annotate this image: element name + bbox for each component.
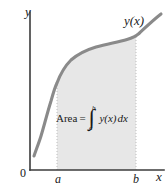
x-tick-label-b: b xyxy=(133,173,139,185)
area-formula-word: Area xyxy=(56,113,77,124)
area-formula-equals: = xyxy=(79,113,85,124)
origin-label: 0 xyxy=(20,167,26,179)
integral-upper-limit: b xyxy=(92,105,96,112)
x-axis-label: x xyxy=(156,170,162,183)
curve-label: y(x) xyxy=(124,14,144,27)
shaded-area-region xyxy=(57,37,136,171)
differential-dx: dx xyxy=(118,113,128,124)
x-tick-label-a: a xyxy=(55,173,61,185)
integral-group: ∫ b a xyxy=(89,108,98,129)
figure-canvas xyxy=(0,0,168,193)
area-formula-annotation: Area = ∫ b a y(x) dx xyxy=(56,108,128,129)
area-under-curve-figure: y x y(x) 0 a b Area = ∫ b a y(x) dx xyxy=(0,0,168,193)
integrand-expression: y(x) xyxy=(99,113,116,124)
integral-lower-limit: a xyxy=(89,125,93,132)
y-axis-label: y xyxy=(25,5,31,18)
